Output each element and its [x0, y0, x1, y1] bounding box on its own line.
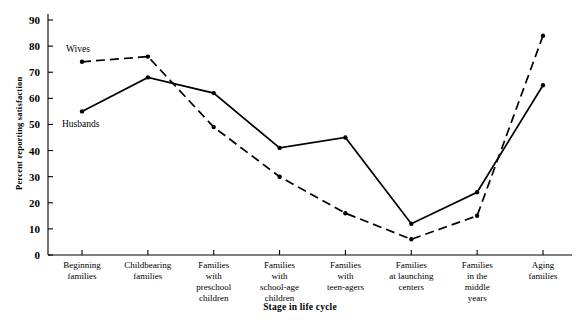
series-annotations: WivesHusbands [62, 44, 100, 130]
x-category-label-line: with [337, 271, 354, 281]
data-point-husbands [80, 109, 84, 113]
y-tick-label: 0 [35, 249, 41, 261]
data-point-husbands [146, 75, 150, 79]
x-category-label-line: at launching [389, 271, 434, 281]
y-tick-label: 70 [29, 66, 41, 78]
data-point-wives [541, 34, 545, 38]
data-point-wives [475, 214, 479, 218]
category-labels: BeginningfamiliesChildbearingfamiliesFam… [63, 260, 558, 303]
x-axis-title: Stage in life cycle [263, 302, 337, 312]
x-category-label-line: Families [264, 260, 295, 270]
y-axis-title: Percent reporting satisfaction [14, 77, 24, 190]
x-category-label: Familieswithteen-agers [327, 260, 364, 292]
x-category-label: Familieswithpreschoolchildren [196, 260, 231, 303]
series-annotation-wives: Wives [66, 44, 90, 54]
y-tick-label: 50 [29, 118, 41, 130]
x-category-label-line: years [468, 293, 487, 303]
x-category-label-line: preschool [196, 282, 231, 292]
y-tick-label: 80 [29, 40, 41, 52]
x-category-label-line: Childbearing [124, 260, 171, 270]
y-tick-label: 40 [29, 145, 41, 157]
x-category-label-line: families [529, 271, 558, 281]
x-category-label-line: in the [467, 271, 487, 281]
data-point-husbands [541, 83, 545, 87]
data-point-husbands [277, 146, 281, 150]
life-cycle-satisfaction-chart: 0102030405060708090 WivesHusbands Beginn… [0, 0, 579, 320]
x-category-label: Childbearingfamilies [124, 260, 171, 281]
x-category-label-line: Families [198, 260, 229, 270]
x-category-label-line: Families [462, 260, 493, 270]
x-category-label-line: Families [396, 260, 427, 270]
y-tick-label: 30 [29, 171, 41, 183]
x-category-label-line: school-age [260, 282, 299, 292]
x-category-label: Familieswithschool-agechildren [260, 260, 299, 303]
data-point-wives [212, 125, 216, 129]
x-category-label-line: Families [330, 260, 361, 270]
x-category-label-line: Aging [532, 260, 555, 270]
x-category-label-line: teen-agers [327, 282, 364, 292]
x-category-label-line: with [206, 271, 223, 281]
data-point-husbands [409, 222, 413, 226]
x-category-label-line: Beginning [63, 260, 101, 270]
x-category-label-line: children [199, 293, 229, 303]
x-category-label: Agingfamilies [529, 260, 558, 281]
x-category-label-line: families [133, 271, 162, 281]
data-point-husbands [343, 135, 347, 139]
data-point-wives [277, 175, 281, 179]
data-point-husbands [475, 190, 479, 194]
y-tick-label: 60 [29, 92, 41, 104]
y-tick-label: 20 [29, 197, 41, 209]
x-category-label-line: families [68, 271, 97, 281]
y-tick-label: 10 [29, 223, 41, 235]
series-line-wives [82, 36, 543, 240]
data-point-wives [146, 54, 150, 58]
x-axis [48, 250, 572, 255]
x-category-label-line: middle [465, 282, 490, 292]
data-point-wives [343, 211, 347, 215]
y-tick-label: 90 [29, 14, 41, 26]
series-annotation-husbands: Husbands [62, 119, 100, 129]
y-axis: 0102030405060708090 [29, 14, 53, 261]
data-series-group [80, 34, 545, 242]
series-line-husbands [82, 77, 543, 223]
x-category-label: Beginningfamilies [63, 260, 101, 281]
x-category-label: Familiesat launchingcenters [389, 260, 434, 292]
x-category-label-line: with [272, 271, 289, 281]
data-point-husbands [212, 91, 216, 95]
x-category-label-line: centers [399, 282, 425, 292]
chart-svg: 0102030405060708090 WivesHusbands Beginn… [0, 0, 579, 320]
x-category-label: Familiesin themiddleyears [462, 260, 493, 303]
data-point-wives [409, 237, 413, 241]
data-point-wives [80, 60, 84, 64]
